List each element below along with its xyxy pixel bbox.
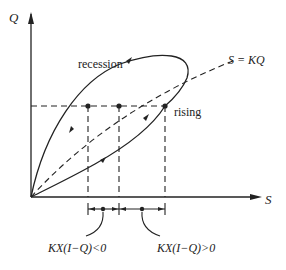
rising-lower-arrow-icon xyxy=(100,157,106,163)
leader-negative xyxy=(86,212,103,236)
bracket-arrow-icon xyxy=(89,207,95,211)
point-recession xyxy=(85,103,90,108)
bracket-arrow-icon xyxy=(120,207,126,211)
recession-lower-arrow-icon xyxy=(69,126,74,133)
y-axis-label: Q xyxy=(9,10,19,25)
recession-label: recession xyxy=(78,57,123,71)
negative-region-label: KX(I−Q)<0 xyxy=(47,241,106,255)
hysteresis-diagram: Q S S = KQ recession rising KX(I−Q)<0 KX… xyxy=(0,0,286,270)
point-storage xyxy=(116,103,121,108)
bracket-midpoint-negative xyxy=(101,207,105,211)
x-axis-label: S xyxy=(265,192,272,207)
bracket-arrow-icon xyxy=(112,207,118,211)
bracket-arrow-icon xyxy=(158,207,164,211)
positive-region-label: KX(I−Q)>0 xyxy=(156,241,215,255)
storage-line xyxy=(31,60,235,197)
rising-arrow-icon xyxy=(143,114,149,121)
storage-line-label: S = KQ xyxy=(228,53,265,67)
bracket-midpoint-positive xyxy=(140,207,144,211)
x-axis-arrow-icon xyxy=(250,194,262,200)
point-rising xyxy=(162,103,167,108)
y-axis-arrow-icon xyxy=(28,12,34,24)
leader-positive xyxy=(142,212,160,236)
rising-label: rising xyxy=(174,105,201,119)
